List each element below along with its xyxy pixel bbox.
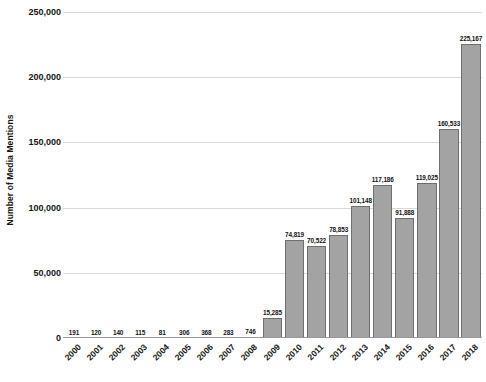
bar-slot: 191 xyxy=(63,12,85,338)
bar-slot: 15,285 xyxy=(261,12,283,338)
y-axis-tick-labels: 050,000100,000150,000200,000250,000 xyxy=(16,0,61,345)
y-axis-tick: 100,000 xyxy=(16,203,61,213)
bar-slot: 78,853 xyxy=(328,12,350,338)
bar[interactable] xyxy=(285,240,304,338)
bar-value-label: 15,285 xyxy=(263,309,282,316)
y-axis-tick: 50,000 xyxy=(16,268,61,278)
bar[interactable] xyxy=(395,218,414,338)
y-axis-tick: 200,000 xyxy=(16,72,61,82)
bar-value-label: 117,186 xyxy=(372,176,394,183)
y-axis-tick: 250,000 xyxy=(16,7,61,17)
plot-area: 1911201401158130636828374615,28574,81970… xyxy=(63,12,482,338)
y-axis-title-label: Number of Media Mentions xyxy=(4,114,14,225)
bar-value-label: 101,148 xyxy=(349,197,371,204)
bar-value-label: 140 xyxy=(113,329,123,336)
y-axis-tick: 150,000 xyxy=(16,137,61,147)
bar-slot: 283 xyxy=(217,12,239,338)
bar-value-label: 225,167 xyxy=(460,35,482,42)
bar[interactable] xyxy=(417,183,436,338)
x-axis-tick: 2014 xyxy=(371,342,391,362)
x-axis-tick: 2010 xyxy=(283,342,303,362)
bar-slot: 160,533 xyxy=(438,12,460,338)
bar-slot: 74,819 xyxy=(284,12,306,338)
bar-value-label: 283 xyxy=(223,329,233,336)
bar-value-label: 746 xyxy=(245,328,255,335)
bar-slot: 119,025 xyxy=(416,12,438,338)
bar-slot: 115 xyxy=(129,12,151,338)
bar-slot: 368 xyxy=(195,12,217,338)
bar[interactable] xyxy=(461,44,480,338)
bar-value-label: 368 xyxy=(201,329,211,336)
x-axis-tick: 2003 xyxy=(129,342,149,362)
bar-value-label: 119,025 xyxy=(416,174,438,181)
x-axis-tick: 2006 xyxy=(195,342,215,362)
x-axis-line xyxy=(63,337,482,338)
x-axis-tick: 2018 xyxy=(460,342,480,362)
bar-slot: 101,148 xyxy=(350,12,372,338)
x-axis-tick: 2005 xyxy=(173,342,193,362)
bar-slot: 91,888 xyxy=(394,12,416,338)
bar[interactable] xyxy=(439,129,458,338)
bar-value-label: 120 xyxy=(91,329,101,336)
bar-slot: 117,186 xyxy=(372,12,394,338)
x-axis-tick: 2009 xyxy=(261,342,281,362)
bar-value-label: 191 xyxy=(69,329,79,336)
x-axis-tick: 2004 xyxy=(151,342,171,362)
x-axis-tick: 2017 xyxy=(437,342,457,362)
x-axis-tick: 2000 xyxy=(63,342,83,362)
x-axis-tick: 2007 xyxy=(217,342,237,362)
x-axis-tick: 2002 xyxy=(107,342,127,362)
bar[interactable] xyxy=(351,206,370,338)
bar-value-label: 160,533 xyxy=(438,120,460,127)
x-axis-tick-labels: 2000200120022003200420052006200720082009… xyxy=(63,340,482,382)
bar-value-label: 74,819 xyxy=(285,231,304,238)
bar[interactable] xyxy=(329,235,348,338)
x-axis-tick: 2001 xyxy=(85,342,105,362)
bar-slot: 225,167 xyxy=(460,12,482,338)
bar-chart: Number of Media Mentions 050,000100,0001… xyxy=(0,0,486,382)
bar-value-label: 70,522 xyxy=(307,237,326,244)
bar-value-label: 91,888 xyxy=(395,209,414,216)
bar-value-label: 115 xyxy=(135,329,145,336)
x-axis-tick: 2008 xyxy=(239,342,259,362)
bar-slot: 120 xyxy=(85,12,107,338)
x-axis-tick: 2016 xyxy=(415,342,435,362)
bar-slot: 70,522 xyxy=(306,12,328,338)
x-axis-tick: 2012 xyxy=(327,342,347,362)
bar-value-label: 78,853 xyxy=(329,226,348,233)
bar-slot: 81 xyxy=(151,12,173,338)
bar-slot: 306 xyxy=(173,12,195,338)
x-axis-tick: 2013 xyxy=(349,342,369,362)
bar[interactable] xyxy=(263,318,282,338)
x-axis-tick: 2015 xyxy=(393,342,413,362)
bar-slot: 140 xyxy=(107,12,129,338)
bars-layer: 1911201401158130636828374615,28574,81970… xyxy=(63,12,482,338)
y-axis-tick: 0 xyxy=(16,333,61,343)
bar-value-label: 81 xyxy=(159,329,166,336)
bar-value-label: 306 xyxy=(179,329,189,336)
x-axis-tick: 2011 xyxy=(305,342,325,362)
bar[interactable] xyxy=(307,246,326,338)
bar-slot: 746 xyxy=(239,12,261,338)
bar[interactable] xyxy=(373,185,392,338)
